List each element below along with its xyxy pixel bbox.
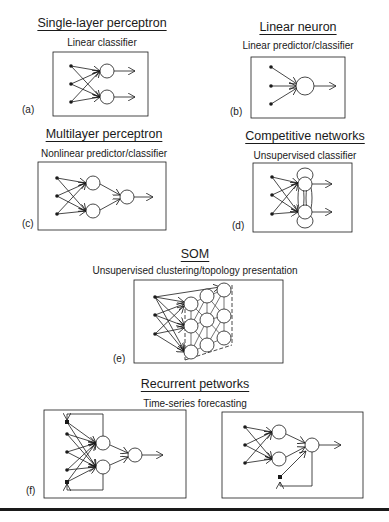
- input-nodes: [55, 64, 282, 484]
- som-diagram: [134, 280, 283, 363]
- competitive-network-diagram: [253, 163, 352, 232]
- network-diagrams: [0, 0, 389, 522]
- section-divider: [0, 508, 389, 511]
- linear-neuron-diagram: [251, 57, 345, 118]
- single-layer-perceptron-diagram: [53, 52, 148, 116]
- recurrent-network-right-diagram: [222, 412, 363, 498]
